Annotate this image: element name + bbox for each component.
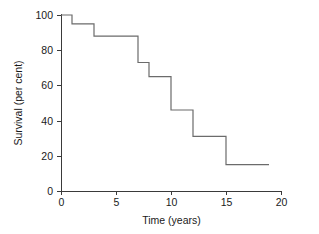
y-tick-label-80: 80 [41,44,53,56]
survival-chart-svg: 0 20 40 60 80 100 0 5 10 15 20 Time (yea… [0,0,319,234]
x-tick-label-5: 5 [114,196,120,208]
survival-chart-figure: 0 20 40 60 80 100 0 5 10 15 20 Time (yea… [0,0,319,234]
y-tick-label-60: 60 [41,79,53,91]
y-tick-label-0: 0 [47,185,53,197]
y-tick-label-20: 20 [41,150,53,162]
y-tick-label-40: 40 [41,115,53,127]
x-tick-label-0: 0 [59,196,65,208]
x-axis-title: Time (years) [142,214,201,226]
x-tick-label-20: 20 [276,196,288,208]
x-tick-label-15: 15 [221,196,233,208]
y-tick-label-100: 100 [35,9,53,21]
y-axis-title: Survival (per cent) [12,60,24,145]
x-tick-label-10: 10 [166,196,178,208]
